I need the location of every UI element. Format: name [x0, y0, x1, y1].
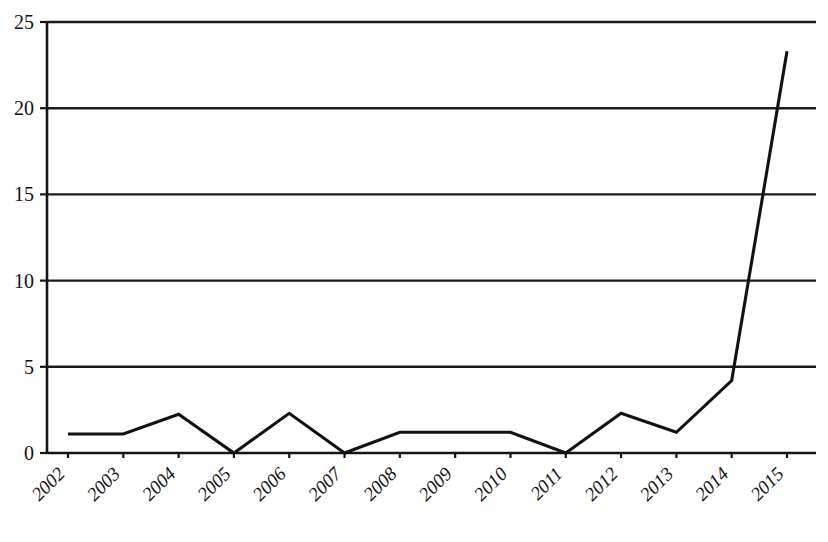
y-tick-label: 5 — [24, 356, 34, 378]
line-chart: 0510152025 20022003200420052006200720082… — [0, 0, 828, 542]
y-tick-label: 10 — [14, 270, 34, 292]
y-tick-label: 15 — [14, 183, 34, 205]
y-tick-label: 20 — [14, 97, 34, 119]
y-tick-label: 0 — [24, 442, 34, 464]
y-tick-label: 25 — [14, 11, 34, 33]
chart-background — [0, 0, 828, 542]
chart-canvas: 0510152025 20022003200420052006200720082… — [0, 0, 828, 542]
